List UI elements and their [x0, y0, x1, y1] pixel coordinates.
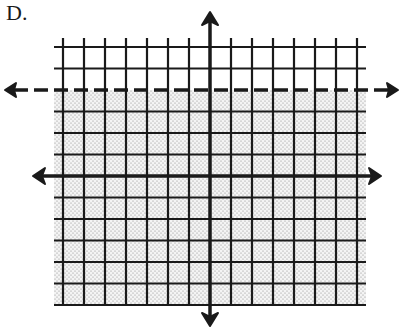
- coordinate-graph: [0, 0, 403, 331]
- boundary-left-arrow-icon: [5, 83, 16, 97]
- boundary-right-arrow-icon: [387, 83, 398, 97]
